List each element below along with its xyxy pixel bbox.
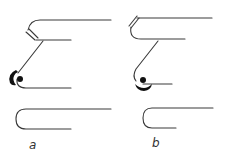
panel-b-u-clip	[143, 108, 213, 128]
panel-b-label: b	[152, 136, 160, 150]
panel-b-crescent-icon	[135, 84, 152, 91]
panel-b: b	[129, 16, 213, 150]
panel-b-dot-icon	[140, 77, 146, 83]
diagram-canvas: a b	[0, 0, 226, 155]
panel-b-diagonal-arm	[134, 41, 158, 81]
panel-a-top-rail	[28, 20, 111, 30]
panel-a-dot-icon	[17, 76, 23, 82]
panel-a-diagonal-arm	[18, 41, 43, 73]
panel-a-u-clip	[16, 109, 111, 129]
panel-a-lower-bend	[17, 79, 71, 88]
panel-b-upper-bend	[131, 27, 185, 39]
panel-a: a	[9, 20, 111, 152]
panel-a-hatch-icon	[26, 29, 38, 40]
panel-a-label: a	[29, 138, 36, 152]
